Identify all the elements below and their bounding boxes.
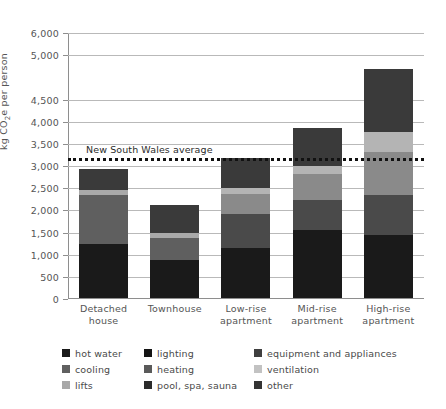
y-axis-tick [63, 299, 68, 300]
bar-segment[interactable] [150, 238, 199, 260]
legend-item[interactable]: lifts [62, 380, 144, 391]
legend-item[interactable]: ventilation [254, 364, 434, 375]
legend-label: other [267, 380, 293, 391]
bar-segment[interactable] [150, 205, 199, 233]
bar-column[interactable] [293, 33, 342, 299]
legend-swatch-icon [62, 381, 70, 389]
legend-item[interactable]: cooling [62, 364, 144, 375]
x-axis-label: Mid-riseapartment [287, 303, 347, 337]
legend-swatch-icon [144, 365, 152, 373]
legend-label: equipment and appliances [267, 348, 397, 359]
chart-root: kg CO2e per person 05001,0001,5002,0002,… [0, 0, 446, 409]
bar-segment[interactable] [364, 235, 413, 299]
bar-segment[interactable] [293, 200, 342, 230]
bar-segment[interactable] [293, 174, 342, 200]
bar-column[interactable] [221, 33, 270, 299]
y-axis-tick-label: 4,500 [31, 94, 59, 105]
legend-item[interactable]: pool, spa, sauna [144, 380, 254, 391]
legend-swatch-icon [144, 349, 152, 357]
y-axis-tick-label: 2,500 [31, 183, 59, 194]
legend-label: heating [157, 364, 194, 375]
y-axis-tick-label: 1,500 [31, 227, 59, 238]
y-axis-tick-label: 1,000 [31, 249, 59, 260]
plot-area: New South Wales average [68, 33, 424, 299]
legend-swatch-icon [254, 381, 262, 389]
bar-segment[interactable] [364, 69, 413, 132]
legend-label: lifts [75, 380, 93, 391]
legend-swatch-icon [254, 365, 262, 373]
x-axis-label: Detachedhouse [74, 303, 134, 337]
average-line-label: New South Wales average [86, 144, 213, 155]
bar-segment[interactable] [79, 244, 128, 299]
legend-swatch-icon [254, 349, 262, 357]
bar-segment[interactable] [364, 195, 413, 235]
bar-segment[interactable] [221, 248, 270, 299]
y-axis-tick-label: 0 [53, 294, 59, 305]
legend-label: cooling [75, 364, 110, 375]
chart-legend: hot waterlightingequipment and appliance… [62, 345, 434, 393]
legend-item[interactable]: lighting [144, 348, 254, 359]
y-axis-tick-label: 3,500 [31, 138, 59, 149]
x-axis-label: Low-riseapartment [216, 303, 276, 337]
legend-swatch-icon [144, 381, 152, 389]
legend-label: hot water [75, 348, 122, 359]
y-axis-tick-label: 5,000 [31, 50, 59, 61]
legend-item[interactable]: other [254, 380, 434, 391]
x-axis-category-labels: DetachedhouseTownhouseLow-riseapartmentM… [68, 303, 424, 337]
legend-label: lighting [157, 348, 194, 359]
bar-segment[interactable] [221, 158, 270, 188]
legend-label: pool, spa, sauna [157, 380, 237, 391]
average-line [68, 158, 424, 161]
legend-swatch-icon [62, 365, 70, 373]
bar-segment[interactable] [293, 230, 342, 299]
y-axis-tick-label: 6,000 [31, 28, 59, 39]
y-axis-tick-label: 2,000 [31, 205, 59, 216]
x-axis-label: High-riseapartment [358, 303, 418, 337]
bar-column[interactable] [364, 33, 413, 299]
bar-segment[interactable] [79, 195, 128, 244]
bar-segment[interactable] [221, 194, 270, 214]
legend-swatch-icon [62, 349, 70, 357]
bar-segment[interactable] [150, 260, 199, 299]
legend-item[interactable]: hot water [62, 348, 144, 359]
bar-segment[interactable] [293, 166, 342, 174]
y-axis-tick-label: 500 [40, 271, 59, 282]
x-axis-label: Townhouse [145, 303, 205, 337]
x-axis-baseline [68, 298, 424, 299]
bar-segment[interactable] [364, 132, 413, 152]
bar-group [68, 33, 424, 299]
y-axis-tick-label: 4,000 [31, 116, 59, 127]
legend-item[interactable]: heating [144, 364, 254, 375]
y-axis-tick-label: 3,000 [31, 161, 59, 172]
legend-label: ventilation [267, 364, 319, 375]
legend-item[interactable]: equipment and appliances [254, 348, 434, 359]
bar-segment[interactable] [221, 214, 270, 248]
bar-segment[interactable] [79, 169, 128, 190]
bar-column[interactable] [150, 33, 199, 299]
y-axis-tick-labels: 05001,0001,5002,0002,5003,0003,5004,0004… [0, 33, 68, 299]
bar-column[interactable] [79, 33, 128, 299]
